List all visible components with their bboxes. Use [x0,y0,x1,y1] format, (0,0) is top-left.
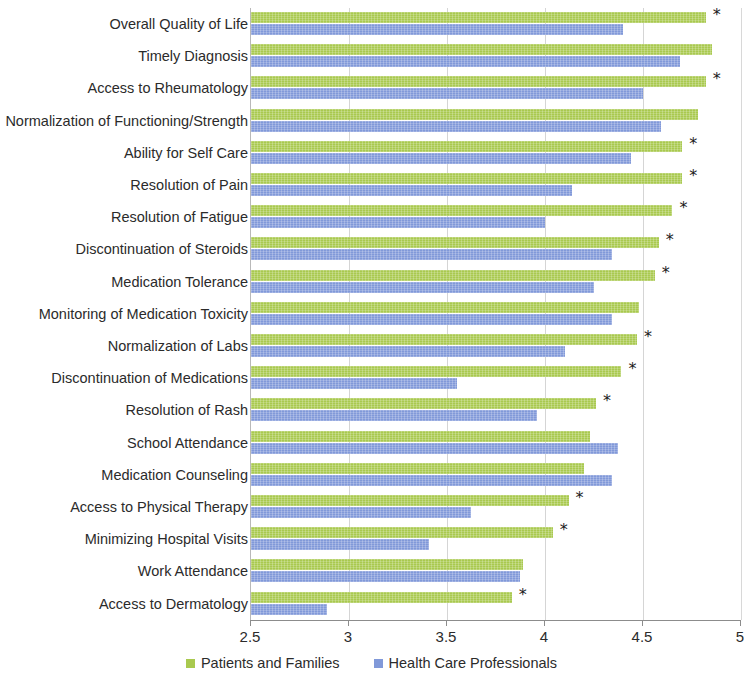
x-axis-tick [740,620,741,626]
bar-health-care-professionals [251,217,545,228]
category-label: Medication Tolerance [111,274,248,289]
bar-health-care-professionals [251,604,327,615]
chart-row: Monitoring of Medication Toxicity [0,298,743,330]
chart-row: Access to Rheumatology* [0,72,743,104]
bar-patients-and-families [251,592,512,603]
chart-row: Minimizing Hospital Visits* [0,523,743,555]
bar-patients-and-families [251,44,712,55]
x-axis-tick-label: 4.5 [632,628,653,645]
category-label: Resolution of Fatigue [111,210,248,225]
category-label: Monitoring of Medication Toxicity [39,307,248,322]
chart-row: Overall Quality of Life* [0,8,743,40]
chart-row: School Attendance [0,427,743,459]
significance-asterisk: * [689,170,697,181]
chart-row: Timely Diagnosis [0,40,743,72]
bar-patients-and-families [251,237,659,248]
bar-patients-and-families [251,495,569,506]
bar-health-care-professionals [251,282,594,293]
legend-label: Patients and Families [201,655,340,671]
chart-row: Discontinuation of Steroids* [0,233,743,265]
significance-asterisk: * [679,202,687,213]
bar-patients-and-families [251,270,655,281]
bar-patients-and-families [251,559,523,570]
chart-row: Medication Counseling [0,459,743,491]
bar-patients-and-families [251,366,621,377]
chart-row: Normalization of Functioning/Strength [0,105,743,137]
x-axis-tick-label: 4 [540,628,548,645]
bar-patients-and-families [251,527,553,538]
category-label: Access to Rheumatology [88,81,248,96]
bar-patients-and-families [251,334,637,345]
category-label: Discontinuation of Medications [51,371,248,386]
significance-asterisk: * [560,524,568,535]
bar-health-care-professionals [251,571,520,582]
legend-entry[interactable]: Health Care Professionals [374,655,557,671]
legend-swatch-icon [374,659,383,668]
bar-patients-and-families [251,173,682,184]
bar-health-care-professionals [251,249,612,260]
chart-legend: Patients and FamiliesHealth Care Profess… [0,655,743,671]
category-label: Resolution of Rash [125,403,248,418]
bar-health-care-professionals [251,153,631,164]
category-label: Normalization of Labs [108,339,248,354]
legend-entry[interactable]: Patients and Families [186,655,340,671]
bar-health-care-professionals [251,56,680,67]
bar-health-care-professionals [251,410,537,421]
legend-swatch-icon [186,659,195,668]
category-label: Discontinuation of Steroids [76,242,249,257]
bar-patients-and-families [251,109,698,120]
significance-asterisk: * [576,492,584,503]
x-axis-tick-label: 3.5 [436,628,457,645]
chart-row: Ability for Self Care* [0,137,743,169]
x-axis-tick [446,620,447,626]
category-label: Overall Quality of Life [109,17,248,32]
bar-health-care-professionals [251,539,429,550]
category-label: Timely Diagnosis [138,49,248,64]
chart-row: Discontinuation of Medications* [0,362,743,394]
significance-asterisk: * [713,9,721,20]
x-axis-tick [348,620,349,626]
bar-patients-and-families [251,302,639,313]
bar-patients-and-families [251,431,590,442]
bar-health-care-professionals [251,121,661,132]
category-label: Resolution of Pain [130,178,248,193]
category-label: Minimizing Hospital Visits [85,532,248,547]
bar-patients-and-families [251,76,706,87]
bar-health-care-professionals [251,185,572,196]
x-axis-tick [642,620,643,626]
x-axis-tick-label: 2.5 [240,628,261,645]
significance-asterisk: * [628,363,636,374]
bar-health-care-professionals [251,314,612,325]
x-axis-tick [250,620,251,626]
legend-label: Health Care Professionals [389,655,557,671]
chart-row: Resolution of Fatigue* [0,201,743,233]
bar-health-care-professionals [251,346,565,357]
chart-row: Access to Physical Therapy* [0,491,743,523]
bar-health-care-professionals [251,507,471,518]
bar-health-care-professionals [251,475,612,486]
significance-asterisk: * [519,589,527,600]
significance-asterisk: * [666,234,674,245]
chart-row: Normalization of Labs* [0,330,743,362]
x-axis-tick [544,620,545,626]
significance-asterisk: * [644,331,652,342]
category-label: Normalization of Functioning/Strength [5,113,248,128]
significance-asterisk: * [689,138,697,149]
bar-patients-and-families [251,205,672,216]
bar-patients-and-families [251,141,682,152]
category-label: Work Attendance [138,564,248,579]
chart-row: Work Attendance [0,555,743,587]
bar-health-care-professionals [251,443,618,454]
bar-patients-and-families [251,463,584,474]
bar-health-care-professionals [251,24,623,35]
chart-row: Medication Tolerance* [0,266,743,298]
significance-asterisk: * [662,267,670,278]
category-label: Access to Dermatology [99,596,248,611]
bar-patients-and-families [251,398,596,409]
x-axis-line [250,620,741,621]
x-axis-tick-label: 3 [344,628,352,645]
significance-asterisk: * [603,395,611,406]
x-axis-tick-label: 5 [736,628,744,645]
chart-row: Access to Dermatology* [0,588,743,620]
